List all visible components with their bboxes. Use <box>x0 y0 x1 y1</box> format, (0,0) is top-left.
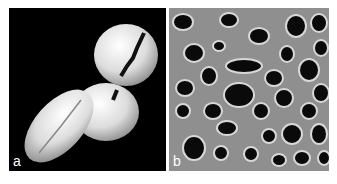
panel-label: b <box>173 154 181 168</box>
pollen-grains-image <box>9 8 166 171</box>
panel-label: a <box>13 154 21 168</box>
surface-texture-image <box>169 8 329 171</box>
panel-a: a <box>9 8 166 171</box>
panel-b: b <box>169 8 329 171</box>
